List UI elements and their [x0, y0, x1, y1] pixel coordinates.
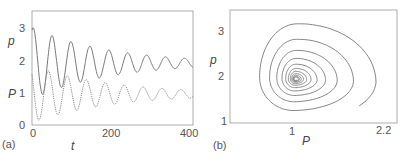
ylabel-P: P [8, 87, 16, 101]
xtick-2.2: 2.2 [376, 124, 391, 136]
plot-frame-b [230, 10, 397, 123]
xtick-200: 200 [102, 127, 120, 139]
xtick-0: 0 [30, 127, 36, 139]
series-P-dotted-line [32, 71, 193, 120]
panel-b: 3 2 1 1 2.2 p P (b) [209, 10, 397, 151]
ytick-0: 0 [19, 119, 25, 131]
ylabel-p: p [7, 34, 15, 48]
ytick-1: 1 [221, 115, 227, 127]
ytick-3: 3 [218, 25, 224, 37]
panel-label-b: (b) [213, 139, 226, 151]
panel-a: 3 2 1 0 0 200 400 p P t (a) [2, 11, 198, 153]
ytick-3: 3 [19, 22, 25, 34]
xtick-1: 1 [289, 125, 295, 137]
panel-label-a: (a) [2, 138, 15, 150]
figure: 3 2 1 0 0 200 400 p P t (a) 3 2 1 1 2.2 … [0, 0, 407, 159]
xlabel-P: P [302, 134, 310, 148]
ytick-2: 2 [218, 70, 224, 82]
xlabel-t: t [71, 139, 75, 153]
phase-trajectory [260, 24, 376, 111]
xtick-400: 400 [180, 127, 198, 139]
ylabel-p: p [209, 53, 217, 67]
ytick-2: 2 [19, 55, 25, 67]
ytick-1: 1 [19, 87, 25, 99]
series-p-line [32, 28, 193, 95]
plot-frame-a [32, 11, 193, 125]
